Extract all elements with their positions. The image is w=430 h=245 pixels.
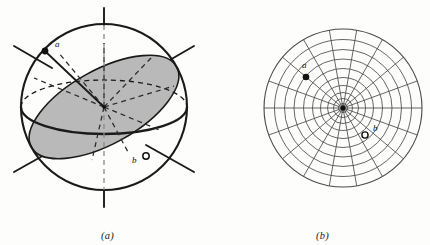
panel-a-caption: (a) [0,230,215,241]
panel-b-caption: (b) [215,230,430,241]
point-a-label: a [55,39,60,49]
point-a-marker[interactable] [42,48,49,55]
point-a-marker[interactable] [303,74,310,81]
point-b-label: b [132,155,137,165]
sphere-center-dot [102,105,106,109]
point-b-marker[interactable] [143,153,149,159]
point-a-label: a [302,60,307,70]
point-b-label: b [373,123,378,133]
panel-b-polar-net: a b (b) [215,0,430,245]
figure-container: a b (a) a b (b) [0,0,430,245]
sphere-diagram-svg: a b [0,0,215,245]
panel-a-sphere: a b (a) [0,0,215,245]
net-center-dot [340,105,345,110]
polar-net-svg: a b [215,0,430,245]
point-b-marker[interactable] [362,132,368,138]
